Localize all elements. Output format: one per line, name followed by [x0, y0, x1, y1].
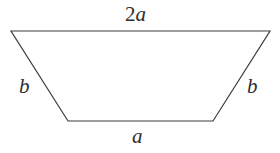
top-label-coefficient: 2 — [125, 2, 136, 26]
side-label-top: 2a — [125, 4, 146, 25]
side-label-right-leg: b — [247, 76, 258, 97]
bottom-label-variable: a — [132, 124, 143, 148]
top-label-variable: a — [136, 2, 147, 26]
trapezoid-figure: 2a a b b — [0, 0, 280, 153]
trapezoid-outline — [11, 31, 270, 121]
side-label-bottom: a — [132, 126, 143, 147]
side-label-left-leg: b — [19, 76, 30, 97]
left-leg-label-variable: b — [19, 74, 30, 98]
right-leg-label-variable: b — [247, 74, 258, 98]
